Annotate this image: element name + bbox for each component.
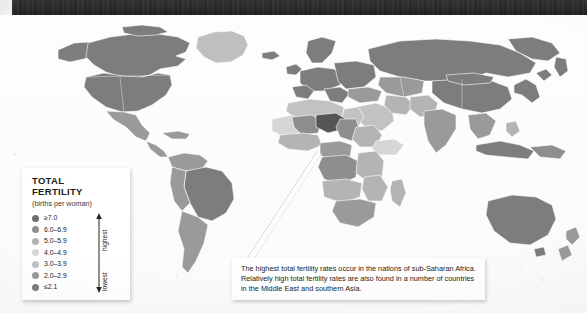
map-legend: TOTAL FERTILITY (births per woman) ≥7.0 … xyxy=(22,168,130,300)
legend-swatch-icon xyxy=(32,226,39,233)
callout-text: The highest total fertility rates occur … xyxy=(241,264,476,295)
map-callout-box: The highest total fertility rates occur … xyxy=(232,258,485,300)
header-band-texture xyxy=(12,0,587,15)
legend-item[interactable]: 3.0–3.9 xyxy=(32,259,89,269)
legend-swatch-icon xyxy=(32,238,39,245)
rank-high-label: highest xyxy=(101,230,108,251)
legend-subtitle: (births per woman) xyxy=(32,199,122,208)
legend-item-label: 6.0–6.9 xyxy=(44,226,67,234)
legend-swatch-icon xyxy=(32,284,39,291)
scan-speck xyxy=(541,279,544,281)
legend-item[interactable]: 2.0–2.9 xyxy=(32,271,89,281)
scan-speck xyxy=(14,153,17,156)
figure-page: TOTAL FERTILITY (births per woman) ≥7.0 … xyxy=(0,0,587,313)
legend-item[interactable]: 5.0–5.9 xyxy=(32,236,89,246)
legend-swatch-icon xyxy=(32,215,39,222)
legend-item-label: 5.0–5.9 xyxy=(44,237,67,245)
legend-item-label: ≥7.0 xyxy=(44,214,57,222)
legend-item-label: 2.0–2.9 xyxy=(44,272,67,280)
scan-speck xyxy=(520,268,522,270)
rank-low-label: lowest xyxy=(101,272,108,291)
legend-item[interactable]: 6.0–6.9 xyxy=(32,225,89,235)
legend-item-list: ≥7.0 6.0–6.9 5.0–5.9 4.0–4.9 3.0–3.9 xyxy=(32,213,89,292)
legend-item[interactable]: ≤2.1 xyxy=(32,282,89,292)
region-tasmania xyxy=(534,247,546,257)
legend-swatch-icon xyxy=(32,261,39,268)
legend-item[interactable]: 4.0–4.9 xyxy=(32,248,89,258)
rank-scale-arrow: highest lowest xyxy=(90,213,122,293)
scan-speck xyxy=(176,276,178,278)
legend-body: ≥7.0 6.0–6.9 5.0–5.9 4.0–4.9 3.0–3.9 xyxy=(32,213,122,293)
legend-item[interactable]: ≥7.0 xyxy=(32,213,89,223)
legend-swatch-icon xyxy=(32,272,39,279)
legend-item-label: ≤2.1 xyxy=(44,283,57,291)
legend-item-label: 3.0–3.9 xyxy=(44,260,67,268)
legend-title: TOTAL FERTILITY xyxy=(32,176,122,197)
page-header-band xyxy=(12,0,587,15)
legend-item-label: 4.0–4.9 xyxy=(44,249,67,257)
legend-swatch-icon xyxy=(32,249,39,256)
